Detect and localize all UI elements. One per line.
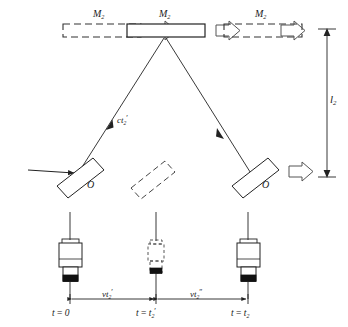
- ray-up-leg: [77, 38, 164, 175]
- ray-up-arrow-icon: [106, 120, 114, 131]
- mirror-center-label: M2: [159, 9, 170, 19]
- timeline-tick-2-label: t = t2′: [136, 309, 156, 319]
- mirror-center: [127, 24, 205, 37]
- beamsplitter-right-label: O: [262, 180, 269, 190]
- apparatus-left: [59, 212, 82, 299]
- timeline-segment-2-label: vt2″: [190, 290, 203, 299]
- beamsplitter-left-label: O: [87, 180, 94, 190]
- physics-ray-diagram: M2 M2 M2 ct2′ O O l2 vt2′ vt2″ t = 0 t =…: [0, 0, 348, 327]
- diagram-canvas: [0, 0, 348, 327]
- timeline-tick-1-label: t = 0: [52, 309, 70, 319]
- timeline-tick-3-label: t = t2: [231, 309, 249, 319]
- ray-down-arrow-icon: [216, 128, 224, 139]
- timeline-segment-1-label: vt2′: [102, 290, 113, 299]
- mirror-ghost-left-label: M2: [93, 9, 104, 19]
- beamsplitter-ghost-center: [131, 161, 175, 199]
- incoming-ray: [28, 170, 74, 173]
- beamsplitter-left: [57, 158, 104, 198]
- mirror-ghost-right-label: M2: [255, 9, 266, 19]
- beamsplitter-right: [232, 158, 279, 198]
- exit-arrow-icon: [289, 162, 313, 181]
- apparatus-right: [237, 212, 260, 299]
- dimension-vertical-label: l2: [330, 94, 336, 105]
- apparatus-center-ghost: [148, 212, 164, 299]
- mirror-ghost-right: [224, 24, 302, 37]
- ray-down-leg: [166, 38, 252, 175]
- ray-up-leg-label: ct2′: [117, 116, 128, 125]
